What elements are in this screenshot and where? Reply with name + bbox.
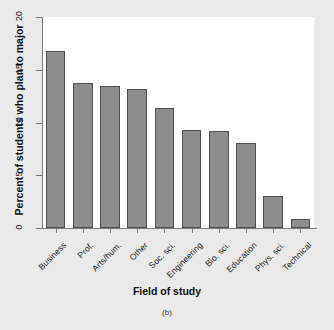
x-axis-tick-label-text: Technical bbox=[281, 240, 314, 273]
y-axis-tick-label: 0 bbox=[14, 222, 36, 234]
x-axis-tick-mark bbox=[137, 229, 138, 233]
y-axis-tick-mark bbox=[36, 228, 42, 229]
x-axis-tick-mark bbox=[83, 229, 84, 233]
y-axis-line bbox=[42, 17, 43, 229]
y-axis-tick-mark bbox=[36, 70, 42, 71]
x-axis-tick-mark bbox=[246, 229, 247, 233]
bar bbox=[209, 131, 229, 228]
y-axis-tick-label-text: 20 bbox=[14, 0, 24, 33]
bar bbox=[73, 83, 93, 228]
x-axis-tick-mark bbox=[56, 229, 57, 233]
figure-caption: (b) bbox=[0, 308, 334, 317]
bar bbox=[236, 143, 256, 228]
bar bbox=[46, 51, 66, 228]
y-axis-tick-label: 10 bbox=[14, 117, 36, 129]
y-axis-tick-label: 5 bbox=[14, 169, 36, 181]
bar bbox=[291, 219, 311, 228]
x-axis-tick-mark bbox=[192, 229, 193, 233]
y-axis-tick-mark bbox=[36, 175, 42, 176]
bar bbox=[100, 86, 120, 228]
figure-panel: Percent of students who plan to major 05… bbox=[0, 0, 334, 330]
y-axis-tick-label: 20 bbox=[14, 11, 36, 23]
y-axis-tick-mark bbox=[36, 123, 42, 124]
x-axis-tick-mark bbox=[110, 229, 111, 233]
bar bbox=[182, 130, 202, 228]
x-axis-tick-mark bbox=[219, 229, 220, 233]
y-axis-tick-label: 15 bbox=[14, 64, 36, 76]
bar bbox=[155, 108, 175, 228]
y-axis-tick-label-text: 10 bbox=[14, 105, 24, 139]
y-axis-tick-label-text: 5 bbox=[14, 157, 24, 191]
x-axis-tick-mark bbox=[273, 229, 274, 233]
y-axis-tick-mark bbox=[36, 17, 42, 18]
bar bbox=[127, 89, 147, 228]
x-axis-title: Field of study bbox=[0, 285, 334, 297]
x-axis-tick-mark bbox=[300, 229, 301, 233]
y-axis-tick-label-text: 15 bbox=[14, 52, 24, 86]
bar bbox=[263, 196, 283, 228]
x-axis-tick-mark bbox=[164, 229, 165, 233]
x-axis-tick-label: Technical bbox=[240, 234, 306, 252]
